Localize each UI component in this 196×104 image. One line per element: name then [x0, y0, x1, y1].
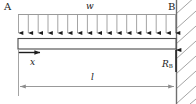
label-reaction-subscript: B — [169, 63, 173, 69]
beam-diagram: A B w x RB l — [0, 0, 196, 104]
label-distributed-load: w — [86, 2, 94, 11]
label-support-b: B — [168, 2, 175, 12]
label-reaction-rb: RB — [162, 60, 173, 70]
beam-diagram-canvas — [0, 0, 196, 104]
label-x-axis: x — [30, 58, 35, 67]
label-support-a: A — [4, 2, 11, 12]
label-length: l — [91, 73, 94, 82]
fixed-wall-hatching — [176, 0, 196, 104]
label-reaction-symbol: R — [162, 59, 169, 69]
distributed-load-arrows — [19, 15, 176, 33]
beam-body — [18, 39, 176, 50]
